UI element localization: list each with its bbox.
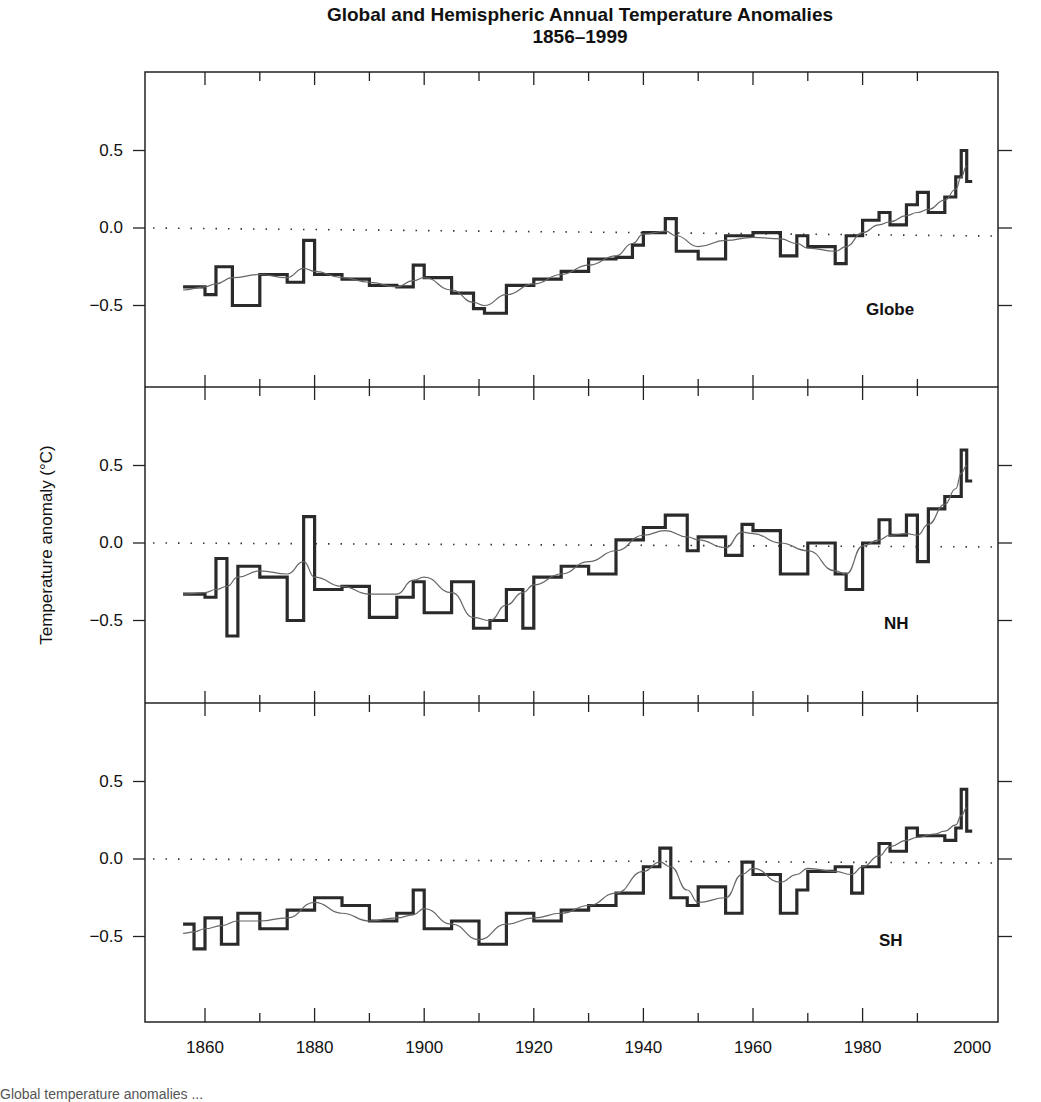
smoothed-curve [183,808,967,940]
y-tick-label: 0.5 [63,456,123,476]
panel-label-sh: SH [879,931,903,951]
x-tick-label: 1940 [613,1038,673,1058]
plot-frame [145,72,998,1022]
annual-step-series [183,151,972,314]
panel-label-globe: Globe [866,300,914,320]
figure-caption: Global temperature anomalies ... [0,1086,203,1102]
y-tick-label: 0.5 [63,772,123,792]
panel-label-nh: NH [884,614,909,634]
y-tick-label: −0.5 [63,611,123,631]
smoothed-curve [183,466,967,621]
y-tick-label: 0.0 [63,849,123,869]
y-tick-label: −0.5 [63,927,123,947]
y-tick-label: −0.5 [63,296,123,316]
y-tick-label: 0.0 [63,533,123,553]
annual-step-series [183,450,972,636]
x-tick-label: 1880 [285,1038,345,1058]
x-tick-label: 1960 [723,1038,783,1058]
x-tick-label: 1980 [833,1038,893,1058]
zero-reference-line [153,228,994,236]
x-tick-label: 1900 [394,1038,454,1058]
y-tick-label: 0.0 [63,218,123,238]
y-tick-label: 0.5 [63,141,123,161]
x-tick-label: 1860 [175,1038,235,1058]
x-tick-label: 2000 [942,1038,1002,1058]
zero-reference-line [153,859,994,863]
annual-step-series [183,789,972,949]
x-tick-label: 1920 [504,1038,564,1058]
